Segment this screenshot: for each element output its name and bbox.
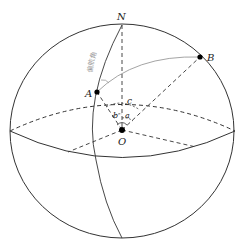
label-b-angle: b — [113, 111, 118, 120]
label-b: B — [206, 52, 214, 63]
label-a: A — [84, 88, 92, 99]
point-b — [197, 54, 202, 59]
label-c: c — [127, 96, 132, 106]
yaw-angle-label: 偏航角 — [85, 51, 98, 73]
angle-c-arc — [106, 103, 140, 110]
label-a-angle: a — [125, 111, 130, 120]
point-o — [119, 127, 125, 133]
arc-a-b — [97, 57, 200, 92]
radius-o-front-left — [68, 130, 122, 152]
point-a — [94, 89, 99, 94]
label-o: O — [118, 136, 126, 147]
sphere-diagram: N A B O c b a 偏航角 — [0, 0, 243, 247]
radius-o-front-right — [122, 130, 196, 147]
label-n: N — [116, 11, 127, 22]
